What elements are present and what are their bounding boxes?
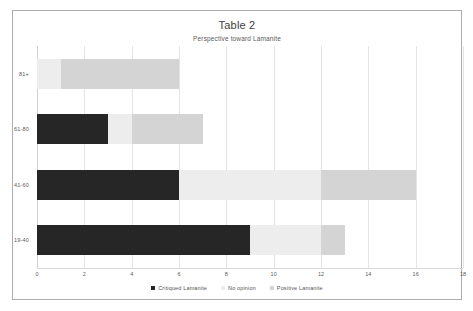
chart-legend: Critiqued LamaniteNo opinionPositive Lam… [13, 285, 461, 291]
legend-swatch-icon [270, 286, 274, 290]
bar-segment [37, 170, 179, 200]
bar-row: 19-40 [37, 225, 463, 255]
bar-segment [108, 114, 132, 144]
legend-label: Positive Lamanite [277, 285, 323, 291]
y-axis-label: 41-60 [14, 182, 29, 188]
gridline-18 [463, 46, 464, 268]
bar-segment [37, 59, 61, 89]
x-axis-tick-label: 12 [318, 271, 324, 277]
bar-segment [132, 114, 203, 144]
x-axis-tick-label: 10 [271, 271, 277, 277]
legend-item[interactable]: No opinion [221, 285, 256, 291]
bar-row: 81+ [37, 59, 463, 89]
bar-segment [61, 59, 179, 89]
bar-segment [250, 225, 321, 255]
x-axis-tick-label: 18 [460, 271, 466, 277]
bar-row: 41-60 [37, 170, 463, 200]
legend-item[interactable]: Critiqued Lamanite [151, 285, 207, 291]
bar-segment [321, 170, 416, 200]
x-axis-tick-label: 2 [83, 271, 86, 277]
y-axis-label: 81+ [19, 71, 29, 77]
chart-title: Table 2 [13, 19, 461, 31]
legend-label: Critiqued Lamanite [158, 285, 207, 291]
y-axis-label: 61-80 [14, 126, 29, 132]
legend-label: No opinion [228, 285, 256, 291]
bar-segment [321, 225, 345, 255]
chart-frame: Table 2 Perspective toward Lamanite 81+6… [12, 10, 462, 300]
x-axis-tick-label: 8 [225, 271, 228, 277]
x-axis-tick-label: 16 [413, 271, 419, 277]
bar-segment [37, 114, 108, 144]
legend-item[interactable]: Positive Lamanite [270, 285, 323, 291]
bar-segment [37, 225, 250, 255]
x-axis-tick-label: 4 [130, 271, 133, 277]
legend-swatch-icon [151, 286, 155, 290]
x-axis-tick-labels: 024681012141618 [37, 268, 463, 282]
plot-area: 81+61-8041-6019-40 [37, 46, 463, 268]
x-axis-tick-label: 14 [365, 271, 371, 277]
x-axis-tick-label: 6 [177, 271, 180, 277]
y-axis-label: 19-40 [14, 237, 29, 243]
legend-swatch-icon [221, 286, 225, 290]
bar-row: 61-80 [37, 114, 463, 144]
chart-subtitle: Perspective toward Lamanite [13, 35, 461, 42]
x-axis-tick-label: 0 [35, 271, 38, 277]
bar-segment [179, 170, 321, 200]
